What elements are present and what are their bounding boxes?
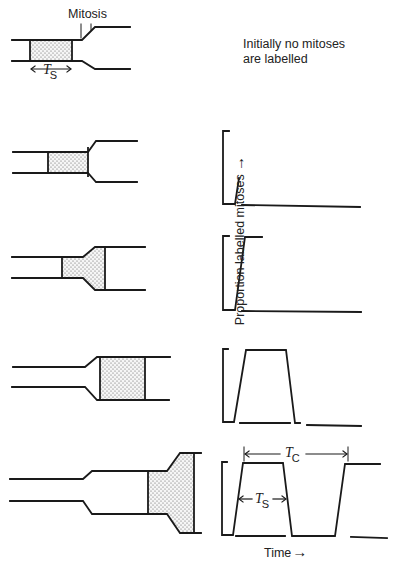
labelled-mitoses-diagram (0, 0, 397, 566)
cell-cycle-tube-stage-4 (10, 453, 201, 533)
plot-stage-4 (222, 447, 387, 538)
initial-note-line-2: are labelled (243, 52, 345, 67)
initial-note-line-1: Initially no mitoses (243, 37, 345, 52)
x-axis-arrow-icon: → (292, 543, 307, 560)
cell-cycle-tube-stage-3 (12, 357, 170, 400)
initial-note: Initially no mitoses are labelled (243, 37, 345, 67)
ts-label-stage-0: TS (43, 60, 58, 78)
cell-cycle-tube-stage-2 (12, 247, 145, 290)
mitosis-label: Mitosis (68, 7, 107, 21)
x-axis-label: Time→ (264, 543, 307, 560)
cell-cycle-tube-stage-0 (12, 24, 130, 72)
tc-label: TC (285, 443, 301, 461)
y-axis-arrow-icon: → (230, 156, 247, 171)
y-axis-label: Proportion labelled mitoses → (230, 141, 247, 341)
plot-stage-3 (223, 349, 361, 426)
ts-label-plot: TS (255, 489, 270, 507)
cell-cycle-tube-stage-1 (13, 141, 137, 182)
labelled-cohort-stipple (30, 40, 72, 61)
